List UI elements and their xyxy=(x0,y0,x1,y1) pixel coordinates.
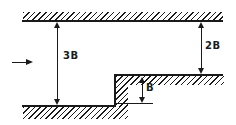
channel-step-flow-diagram: 3B 2B B xyxy=(0,0,236,125)
dimension-line xyxy=(142,82,143,98)
arrowhead-down-icon xyxy=(54,99,60,105)
bottom-wall-hatching xyxy=(23,107,128,119)
step-height-dimension-arrow xyxy=(139,77,145,103)
arrowhead-down-icon xyxy=(139,97,145,103)
step-dimension-extension-line xyxy=(115,103,153,104)
step-height-label: B xyxy=(146,83,154,93)
outlet-height-label: 2B xyxy=(205,41,221,51)
dimension-line xyxy=(57,27,58,100)
inlet-height-dimension-arrow xyxy=(54,22,60,105)
flow-arrow-shaft xyxy=(12,62,27,63)
inlet-height-label: 3B xyxy=(63,51,79,61)
flow-arrowhead xyxy=(26,59,33,65)
dimension-line xyxy=(201,27,202,69)
step-top-hatching xyxy=(116,76,224,85)
flow-right-arrow-icon xyxy=(12,58,33,66)
top-wall-line xyxy=(22,20,223,22)
outlet-height-dimension-arrow xyxy=(198,22,204,74)
top-wall-hatching xyxy=(23,12,223,20)
arrowhead-down-icon xyxy=(198,68,204,74)
